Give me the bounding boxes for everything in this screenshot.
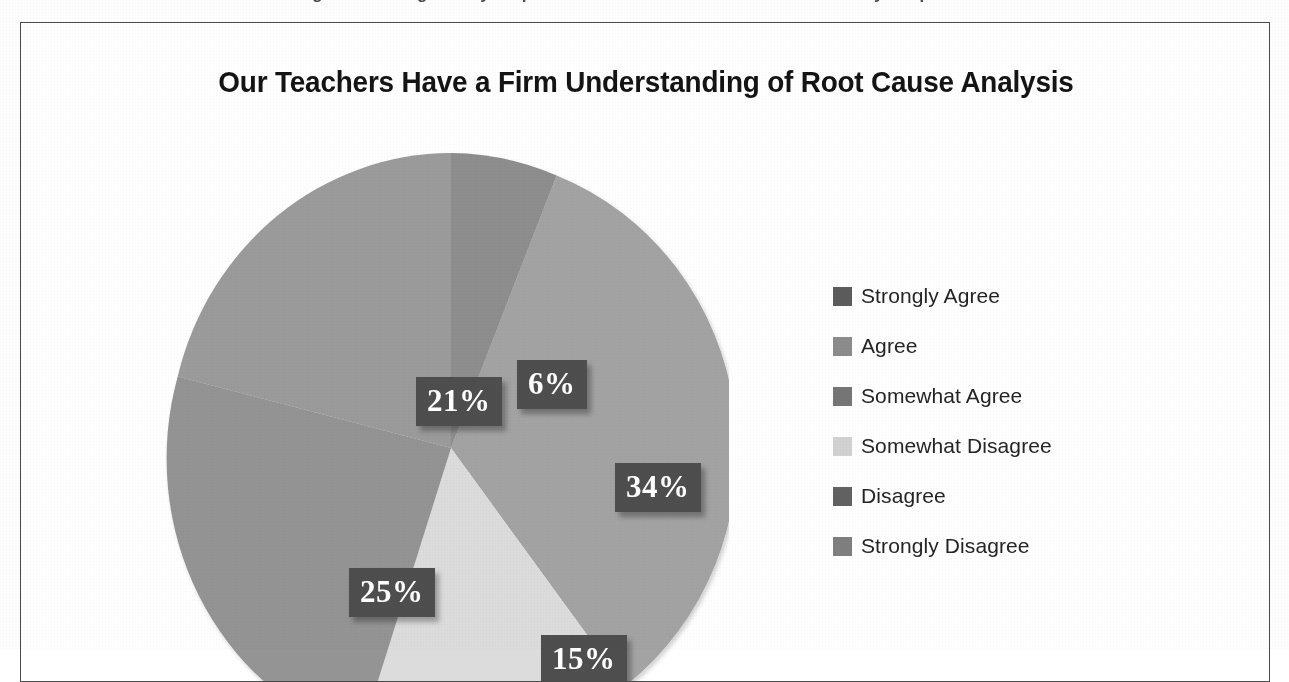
legend-item-somewhat-agree: Somewhat Agree <box>833 381 1213 411</box>
cutoff-text-above-frame: figure showing survey response distribut… <box>0 0 1289 6</box>
chart-title: Our Teachers Have a Firm Understanding o… <box>65 65 1228 99</box>
legend-swatch-icon <box>833 487 852 506</box>
legend-label: Somewhat Disagree <box>861 434 1052 458</box>
legend-label: Somewhat Agree <box>861 384 1022 408</box>
legend-swatch-icon <box>833 537 852 556</box>
legend-swatch-icon <box>833 387 852 406</box>
legend-item-agree: Agree <box>833 331 1213 361</box>
legend-swatch-icon <box>833 287 852 306</box>
legend-label: Strongly Agree <box>861 284 1000 308</box>
legend-swatch-icon <box>833 337 852 356</box>
legend-item-strongly-disagree: Strongly Disagree <box>833 531 1213 561</box>
pie-label-somewhat-disagree: 15% <box>541 635 627 682</box>
legend-label: Strongly Disagree <box>861 534 1030 558</box>
pie-label-strongly-agree: 34% <box>615 463 701 512</box>
chart-legend: Strongly Agree Agree Somewhat Agree Some… <box>833 281 1213 581</box>
chart-frame: Our Teachers Have a Firm Understanding o… <box>20 22 1270 682</box>
pie-label-somewhat-agree: 21% <box>416 377 502 426</box>
pie-label-disagree: 25% <box>349 568 435 617</box>
legend-item-disagree: Disagree <box>833 481 1213 511</box>
pie-label-agree: 6% <box>517 360 587 409</box>
pie-chart: 34% 6% 21% 15% 25% <box>129 108 729 682</box>
legend-label: Disagree <box>861 484 946 508</box>
legend-item-strongly-agree: Strongly Agree <box>833 281 1213 311</box>
legend-item-somewhat-disagree: Somewhat Disagree <box>833 431 1213 461</box>
legend-label: Agree <box>861 334 918 358</box>
legend-swatch-icon <box>833 437 852 456</box>
